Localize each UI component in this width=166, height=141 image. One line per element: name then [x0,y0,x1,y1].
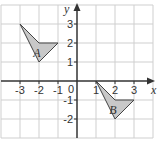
coordinate-grid-diagram: ABxy-3-2-1123321-1-20 [0,0,166,141]
shape-label-b: B [109,103,117,117]
x-tick-label: 1 [93,84,99,96]
x-tick-label: 2 [112,84,118,96]
y-tick-label: 1 [67,56,73,68]
y-tick-label: -2 [63,113,73,125]
x-axis-label: x [150,83,157,97]
y-tick-label: 2 [67,37,73,49]
y-axis-label: y [63,2,70,16]
x-tick-label: -1 [53,84,63,96]
x-tick-label: -3 [15,84,25,96]
y-tick-label: -1 [63,94,73,106]
origin-label: 0 [68,83,74,95]
y-axis-arrow-icon [74,3,81,11]
x-tick-label: 3 [131,84,137,96]
grid-svg: ABxy-3-2-1123321-1-20 [0,0,166,141]
y-tick-label: 3 [67,18,73,30]
shape-label-a: A [32,46,41,60]
x-tick-label: -2 [34,84,44,96]
